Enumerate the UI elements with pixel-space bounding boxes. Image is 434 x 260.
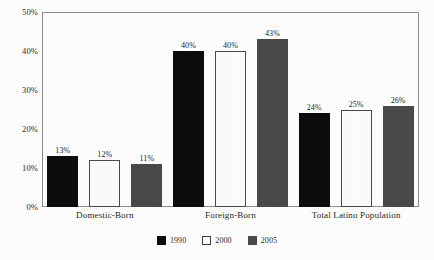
y-tick-label: 50% — [0, 8, 38, 17]
legend-item-1990[interactable]: 1990 — [157, 236, 186, 245]
bar-1990-domestic-born[interactable]: 13% — [47, 156, 78, 207]
y-tick-label: 40% — [0, 47, 38, 56]
legend-swatch-icon — [248, 236, 257, 245]
legend-item-2005[interactable]: 2005 — [248, 236, 277, 245]
x-tick-label: Total Latino Population — [312, 209, 401, 221]
bar-2005-foreign-born[interactable]: 43% — [257, 39, 288, 207]
y-tick-label: 0% — [0, 203, 38, 212]
y-tick-label: 20% — [0, 125, 38, 134]
bar-1990-foreign-born[interactable]: 40% — [173, 51, 204, 207]
bar-2005-total-latino-population[interactable]: 26% — [383, 106, 414, 207]
bar-value-label: 40% — [223, 41, 238, 50]
bar-value-label: 11% — [139, 154, 154, 163]
bar-value-label: 13% — [55, 146, 70, 155]
bar-2005-domestic-born[interactable]: 11% — [131, 164, 162, 207]
bar-value-label: 43% — [265, 29, 280, 38]
legend-item-2000[interactable]: 2000 — [202, 236, 231, 245]
legend-label: 1990 — [170, 236, 186, 245]
bar-value-label: 25% — [349, 100, 364, 109]
x-tick-label: Foreign-Born — [205, 209, 256, 221]
legend-label: 2000 — [215, 236, 231, 245]
bar-chart: 0%10%20%30%40%50% 13%12%11%40%40%43%24%2… — [0, 0, 434, 260]
bar-2000-domestic-born[interactable]: 12% — [89, 160, 120, 207]
x-tick-label: Domestic-Born — [76, 209, 133, 221]
bar-value-label: 26% — [391, 96, 406, 105]
bar-value-label: 12% — [97, 150, 112, 159]
bar-group: 13%12%11% — [42, 12, 168, 207]
bar-1990-total-latino-population[interactable]: 24% — [299, 113, 330, 207]
y-tick-label: 30% — [0, 86, 38, 95]
y-axis: 0%10%20%30%40%50% — [0, 12, 38, 207]
legend-swatch-icon — [157, 236, 166, 245]
x-axis: Domestic-BornForeign-BornTotal Latino Po… — [42, 209, 419, 225]
y-tick-label: 10% — [0, 164, 38, 173]
bar-2000-total-latino-population[interactable]: 25% — [341, 110, 372, 208]
bars-layer: 13%12%11%40%40%43%24%25%26% — [42, 12, 419, 207]
legend-swatch-icon — [202, 236, 211, 245]
bar-value-label: 40% — [181, 41, 196, 50]
bar-value-label: 24% — [307, 103, 322, 112]
legend-label: 2005 — [261, 236, 277, 245]
bar-2000-foreign-born[interactable]: 40% — [215, 51, 246, 207]
chart-legend: 199020002005 — [0, 236, 434, 245]
bar-group: 40%40%43% — [168, 12, 294, 207]
bar-group: 24%25%26% — [293, 12, 419, 207]
